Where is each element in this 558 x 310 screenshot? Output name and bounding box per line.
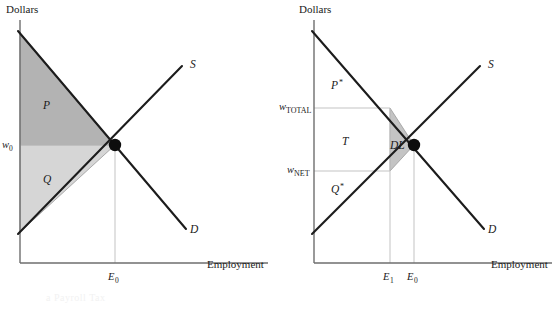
region-label-dl-right: DL [389,139,405,151]
demand-curve-right [312,31,484,229]
diagram-svg: Dollars Employment S D P Q w 0 E 0 [0,0,558,310]
region-worker-surplus-left [20,145,115,232]
wage-tick-label-left: w 0 [2,139,13,153]
region-label-p-star-right: P * [330,78,343,91]
y-axis-label-left: Dollars [6,3,38,15]
employment-tick-sub-left: 0 [115,276,119,285]
supply-curve-label-left: S [190,58,196,70]
region-label-q-right: Q [331,183,340,195]
x-axis-label-left: Employment [207,258,264,270]
y-axis-label-right: Dollars [299,3,331,15]
region-label-q-left: Q [43,173,52,185]
figure-caption-partial: a Payroll Tax [46,292,106,303]
panel-left: Dollars Employment S D P Q w 0 E 0 [2,3,268,285]
wage-total-tick-label-right: w TOTAL [279,101,312,115]
employment-1-letter-right: E [382,271,390,282]
wage-net-tick-label-right: w NET [287,164,310,178]
region-label-p-right: P [330,79,338,91]
employment-tick-label-left: E 0 [107,271,119,285]
wage-tick-sub-left: 0 [9,144,13,153]
figure-container: Dollars Employment S D P Q w 0 E 0 [0,0,558,310]
region-label-p-left: P [42,99,50,111]
demand-curve-label-left: D [189,223,199,235]
employment-0-letter-right: E [406,271,414,282]
employment-0-sub-right: 0 [414,276,418,285]
region-tax-rectangle-right [314,108,390,171]
wage-total-letter-right: w [279,101,286,112]
equilibrium-point-right [408,139,420,151]
panel-right: Dollars Employment S D P * T Q * DL w TO… [279,3,552,285]
wage-net-sub-right: NET [294,169,310,178]
employment-1-tick-label-right: E 1 [382,271,394,285]
employment-tick-letter-left: E [107,271,115,282]
region-label-q-star-right: Q * [331,182,344,195]
wage-total-sub-right: TOTAL [286,106,312,115]
employment-0-tick-label-right: E 0 [406,271,418,285]
supply-curve-label-right: S [488,58,494,70]
employment-1-sub-right: 1 [390,276,394,285]
wage-net-letter-right: w [287,164,294,175]
region-label-t-right: T [342,135,350,147]
region-label-p-star-glyph-right: * [339,78,343,87]
region-label-q-star-glyph-right: * [340,182,344,191]
demand-curve-label-right: D [487,223,497,235]
wage-tick-letter-left: w [2,139,9,150]
x-axis-label-right: Employment [491,258,548,270]
equilibrium-point-left [109,139,121,151]
